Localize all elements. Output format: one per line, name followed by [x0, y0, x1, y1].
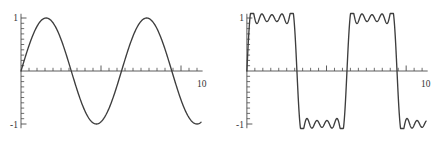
- y-axis-label-top-left: 1: [13, 13, 18, 23]
- y-axis-label-bottom-left: -1: [10, 120, 18, 130]
- two-panel-figure: 1 -1 10 1 -1 10: [0, 0, 445, 142]
- plot-panel-sine: 1 -1 10: [0, 0, 222, 142]
- axes-group-left: [21, 14, 203, 128]
- sine-plot-svg: 1 -1 10: [0, 0, 222, 142]
- plot-panel-gibbs: 1 -1 10: [222, 0, 444, 142]
- x-axis-label-ten-left: 10: [197, 79, 207, 89]
- x-axis-label-ten-right: 10: [421, 79, 431, 89]
- gibbs-plot-svg: 1 -1 10: [222, 0, 444, 142]
- axes-group-right: [247, 14, 428, 128]
- y-axis-label-top-right: 1: [239, 13, 244, 23]
- y-axis-label-bottom-right: -1: [236, 120, 244, 130]
